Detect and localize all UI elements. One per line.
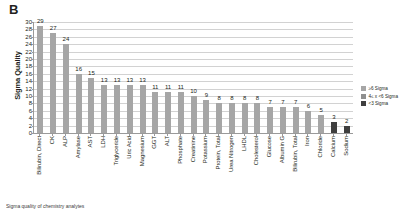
x-label-slot: Albumin G bbox=[276, 136, 289, 208]
bar-value-label: 10 bbox=[190, 88, 197, 95]
bar-series: 29272416151313131311111110988887776532 bbox=[34, 22, 353, 133]
bar-value-label: 11 bbox=[165, 84, 171, 91]
bar-value-label: 11 bbox=[178, 84, 184, 91]
legend-label: 4≤ x <6 Sigma bbox=[369, 94, 398, 99]
bar-value-label: 13 bbox=[101, 77, 108, 84]
x-label-slot: Calcium bbox=[327, 136, 340, 208]
legend-swatch bbox=[361, 101, 366, 106]
bar-value-label: 2 bbox=[345, 118, 348, 125]
bar-value-label: 16 bbox=[75, 66, 82, 73]
figure-panel-b: B 024681012141618202224262830 Sigma Qual… bbox=[0, 0, 413, 211]
x-label-slot: Triglyceride bbox=[110, 136, 123, 208]
x-tick-label: Iron bbox=[304, 136, 311, 146]
plot-area: 024681012141618202224262830 Sigma Qualit… bbox=[33, 22, 353, 134]
bar-slot: 11 bbox=[174, 22, 187, 133]
bar-slot: 13 bbox=[111, 22, 124, 133]
figure-caption: Sigma quality of chemistry analytes bbox=[6, 203, 411, 211]
x-tick-label: CK bbox=[49, 136, 56, 144]
chart-legend: ≥6 Sigma4≤ x <6 Sigma<3 Sigma bbox=[361, 86, 411, 109]
x-tick-label: Calcium bbox=[329, 136, 336, 157]
x-tick-label: LDH bbox=[100, 136, 107, 148]
bar-value-label: 9 bbox=[205, 92, 208, 99]
bar: 7 bbox=[293, 107, 299, 133]
x-label-slot: CK bbox=[46, 136, 59, 208]
bar-value-label: 15 bbox=[88, 70, 95, 77]
x-tick-label: Bilirubin, Direct bbox=[36, 136, 43, 175]
x-label-slot: Glucose bbox=[263, 136, 276, 208]
x-label-slot: Phosphate bbox=[173, 136, 186, 208]
bar: 11 bbox=[152, 92, 158, 133]
x-tick-label: ALT bbox=[164, 136, 171, 146]
bar: 8 bbox=[216, 103, 222, 133]
x-label-slot: Chloride bbox=[314, 136, 327, 208]
bar: 2 bbox=[344, 126, 350, 133]
bar-slot: 13 bbox=[136, 22, 149, 133]
x-tick-label: AST bbox=[87, 136, 94, 147]
x-label-slot: ALT bbox=[161, 136, 174, 208]
bar-value-label: 6 bbox=[307, 103, 310, 110]
x-tick-label: Potassium bbox=[202, 136, 209, 163]
bar-value-label: 7 bbox=[281, 99, 284, 106]
bar-slot: 9 bbox=[200, 22, 213, 133]
bar-value-label: 13 bbox=[139, 77, 146, 84]
x-label-slot: AST bbox=[84, 136, 97, 208]
bar-slot: 6 bbox=[302, 22, 315, 133]
bar-value-label: 3 bbox=[332, 114, 335, 121]
x-tick-label: GGT bbox=[151, 136, 158, 149]
bar: 24 bbox=[63, 44, 69, 133]
bar-slot: 27 bbox=[47, 22, 60, 133]
x-axis-labels: Bilirubin, DirectCKALPAmylaseASTLDHTrigl… bbox=[33, 136, 352, 208]
bar: 6 bbox=[305, 111, 311, 133]
bar-value-label: 24 bbox=[63, 36, 70, 43]
x-tick-label: Protein, Total bbox=[215, 136, 222, 170]
bar-slot: 10 bbox=[187, 22, 200, 133]
legend-label: ≥6 Sigma bbox=[369, 86, 388, 91]
x-tick-label: Uric Acid bbox=[125, 136, 132, 159]
bar-value-label: 7 bbox=[294, 99, 297, 106]
bar: 11 bbox=[178, 92, 184, 133]
bar-slot: 29 bbox=[34, 22, 47, 133]
bar-value-label: 8 bbox=[256, 95, 259, 102]
bar-slot: 7 bbox=[289, 22, 302, 133]
x-tick-label: Creatinine bbox=[189, 136, 196, 162]
x-label-slot: ALP bbox=[59, 136, 72, 208]
x-label-slot: Urea Nitrogen bbox=[224, 136, 237, 208]
bar-value-label: 11 bbox=[152, 84, 158, 91]
x-tick-label: Bilirubin, Total bbox=[291, 136, 298, 172]
x-tick-label: Glucose bbox=[266, 136, 273, 157]
bar-slot: 24 bbox=[60, 22, 73, 133]
bar-value-label: 7 bbox=[268, 99, 271, 106]
bar: 7 bbox=[267, 107, 273, 133]
bar-slot: 2 bbox=[340, 22, 353, 133]
bar-slot: 5 bbox=[315, 22, 328, 133]
bar-slot: 8 bbox=[251, 22, 264, 133]
bar-value-label: 29 bbox=[37, 18, 44, 25]
bar-slot: 15 bbox=[85, 22, 98, 133]
bar: 27 bbox=[50, 33, 56, 133]
bar-value-label: 5 bbox=[320, 107, 323, 114]
bar: 9 bbox=[203, 100, 209, 133]
x-tick-label: Cholesterol bbox=[253, 136, 260, 165]
bar-slot: 7 bbox=[264, 22, 277, 133]
bar-slot: 13 bbox=[98, 22, 111, 133]
bar-value-label: 8 bbox=[217, 95, 220, 102]
bar: 13 bbox=[114, 85, 120, 133]
bar: 10 bbox=[191, 96, 197, 133]
x-label-slot: LHDL bbox=[237, 136, 250, 208]
x-label-slot: Potassium bbox=[199, 136, 212, 208]
legend-swatch bbox=[361, 94, 366, 99]
bar: 11 bbox=[165, 92, 171, 133]
x-label-slot: Uric Acid bbox=[122, 136, 135, 208]
x-tick-label: Sodium bbox=[342, 136, 349, 156]
legend-item: 4≤ x <6 Sigma bbox=[361, 94, 411, 99]
x-tick-label: Triglyceride bbox=[112, 136, 119, 166]
bar-slot: 11 bbox=[149, 22, 162, 133]
x-label-slot: GGT bbox=[148, 136, 161, 208]
y-axis-label: Sigma Quality bbox=[11, 20, 25, 131]
x-tick-label: LHDL bbox=[240, 136, 247, 151]
bar: 29 bbox=[37, 26, 43, 133]
x-tick-label: Urea Nitrogen bbox=[227, 136, 234, 172]
legend-swatch bbox=[361, 86, 366, 91]
bar: 8 bbox=[254, 103, 260, 133]
x-label-slot: Creatinine bbox=[186, 136, 199, 208]
